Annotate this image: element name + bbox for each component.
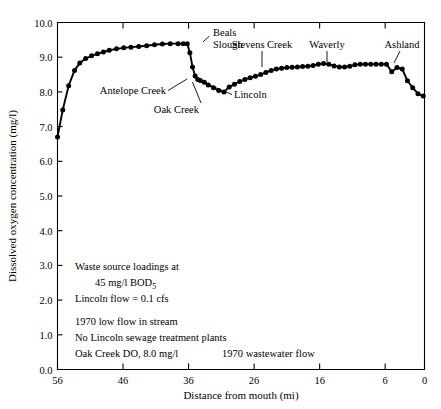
y-axis-ticks <box>58 23 63 370</box>
data-point <box>342 64 347 69</box>
data-point <box>421 94 426 99</box>
data-point <box>72 68 77 73</box>
leader-antelope-creek <box>168 79 187 91</box>
data-point <box>95 51 100 56</box>
note-line-6: Oak Creek DO, 8.0 mg/l <box>75 348 178 359</box>
data-point <box>77 61 82 66</box>
data-point <box>128 45 133 50</box>
y-tick-label: 4.0 <box>39 226 52 237</box>
y-tick-label: 0.0 <box>39 365 52 376</box>
data-point <box>114 46 119 51</box>
annotation-beals-line1: Beals <box>213 27 236 38</box>
x-tick-label: 56 <box>52 375 63 386</box>
x-tick-label: 46 <box>118 375 129 386</box>
data-point <box>374 62 379 67</box>
data-point <box>248 75 253 80</box>
data-point <box>305 64 310 69</box>
data-point <box>321 61 326 66</box>
note-line-2: 45 mg/l BOD5 <box>95 277 156 291</box>
notes-block: Waste source loadings at 45 mg/l BOD5 Li… <box>75 261 315 359</box>
x-tick-label: 16 <box>314 375 325 386</box>
data-point <box>242 77 247 82</box>
data-point <box>274 67 279 72</box>
note-line-5: No Lincoln sewage treatment plants <box>75 332 227 343</box>
y-tick-label: 3.0 <box>39 260 52 271</box>
data-point <box>176 41 181 46</box>
y-tick-label: 5.0 <box>39 191 52 202</box>
annotation-lincoln: Lincoln <box>234 89 267 100</box>
data-point <box>389 69 394 74</box>
y-tick-label: 7.0 <box>39 122 52 133</box>
y-tick-label: 1.0 <box>39 330 52 341</box>
data-point <box>253 74 258 79</box>
leader-oak-creek <box>193 82 202 103</box>
data-point <box>384 62 389 67</box>
annotation-stevens-creek: Stevens Creek <box>232 39 293 50</box>
x-axis-title: Distance from mouth (mi) <box>183 389 299 402</box>
data-point <box>326 62 331 67</box>
data-point <box>279 66 284 71</box>
y-tick-label: 8.0 <box>39 87 52 98</box>
x-tick-label: 26 <box>249 375 260 386</box>
annotation-oak-creek: Oak Creek <box>154 104 200 115</box>
note-line-4: 1970 low flow in stream <box>75 316 178 327</box>
data-point <box>337 64 342 69</box>
note-line-1: Waste source loadings at <box>75 261 179 272</box>
data-point <box>258 72 263 77</box>
chart-container: 0.01.02.03.04.05.06.07.08.09.010.0 56463… <box>0 0 441 409</box>
data-point <box>227 85 232 90</box>
data-point <box>284 65 289 70</box>
data-point <box>405 78 410 83</box>
note-line-7: 1970 wastewater flow <box>222 348 315 359</box>
data-point <box>347 64 352 69</box>
x-tick-label: 0 <box>422 375 427 386</box>
data-point <box>89 53 94 58</box>
data-point <box>144 43 149 48</box>
annotation-antelope-creek: Antelope Creek <box>100 85 167 96</box>
data-point <box>160 42 165 47</box>
y-tick-label: 2.0 <box>39 295 52 306</box>
data-point <box>190 64 195 69</box>
data-point <box>400 67 405 72</box>
data-point <box>300 64 305 69</box>
x-tick-label: 36 <box>183 375 194 386</box>
data-point <box>368 62 373 67</box>
y-tick-label: 6.0 <box>39 156 52 167</box>
data-point <box>311 63 316 68</box>
leader-ashland <box>394 51 400 63</box>
x-tick-label: 6 <box>383 375 388 386</box>
leader-beals-slough <box>203 36 210 42</box>
y-axis-ticklabels: 0.01.02.03.04.05.06.07.08.09.010.0 <box>34 18 52 376</box>
annotation-ashland: Ashland <box>385 39 421 50</box>
data-point <box>55 135 60 140</box>
data-point <box>136 44 141 49</box>
data-point <box>66 83 71 88</box>
data-point <box>152 42 157 47</box>
data-point <box>187 50 192 55</box>
data-point <box>101 50 106 55</box>
data-point <box>121 45 126 50</box>
data-point <box>332 63 337 68</box>
data-point <box>394 65 399 70</box>
data-point <box>379 62 384 67</box>
data-point <box>415 91 420 96</box>
y-tick-label: 9.0 <box>39 52 52 63</box>
data-point <box>168 41 173 46</box>
data-point <box>107 48 112 53</box>
data-point <box>295 64 300 69</box>
annotation-waverly: Waverly <box>309 39 345 50</box>
data-point <box>316 62 321 67</box>
y-axis-title: Dissolved oxygen concentration (mg/l) <box>6 110 19 282</box>
data-point <box>237 79 242 84</box>
data-point <box>263 70 268 75</box>
data-point <box>290 65 295 70</box>
data-point <box>353 62 358 67</box>
note-line-3: Lincoln flow = 0.1 cfs <box>75 293 169 304</box>
do-profile-chart: 0.01.02.03.04.05.06.07.08.09.010.0 56463… <box>0 0 441 409</box>
y-tick-label: 10.0 <box>34 18 52 29</box>
data-point <box>269 68 274 73</box>
x-axis-ticklabels: 564636261660 <box>52 375 427 386</box>
data-point <box>185 41 190 46</box>
data-point <box>363 62 368 67</box>
data-point <box>60 107 65 112</box>
